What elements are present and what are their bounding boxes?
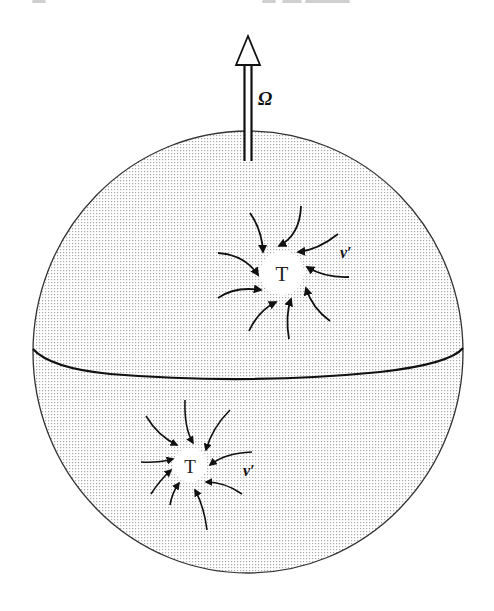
cropped-caption-fragment xyxy=(0,0,494,5)
upper-velocity-label: v′ xyxy=(340,244,352,261)
diagram-svg: Ω T v′ xyxy=(0,0,494,611)
omega-label: Ω xyxy=(258,88,272,109)
lower-velocity-label: v′ xyxy=(243,462,255,479)
rotating-sphere-diagram: Ω T v′ xyxy=(0,0,494,611)
sphere xyxy=(33,131,463,573)
lower-vortex-label: T xyxy=(184,456,196,477)
upper-vortex-label: T xyxy=(276,262,289,286)
